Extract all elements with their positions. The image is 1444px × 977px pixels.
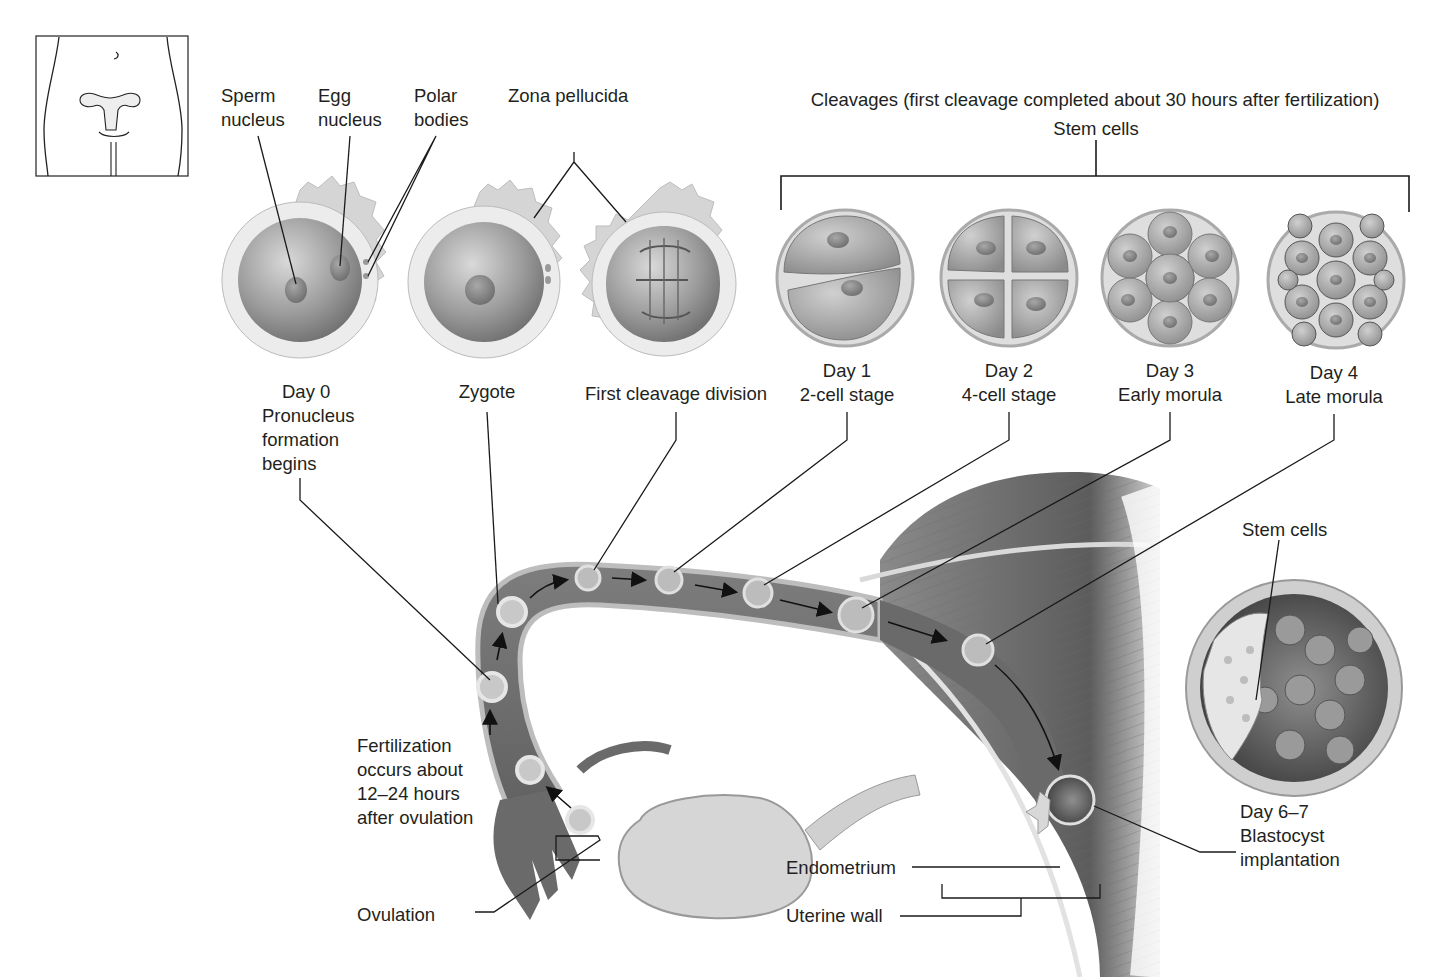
label-line: First cleavage division xyxy=(570,382,782,406)
stage-label-day0: Day 0 Pronucleus formation begins xyxy=(262,380,355,476)
polar-bodies-label: Polar bodies xyxy=(414,84,469,132)
stem-cells-top-label: Stem cells xyxy=(1040,117,1152,141)
stage-label-day2: Day 2 4-cell stage xyxy=(944,359,1074,407)
blastocyst-implantation-label: Day 6–7 Blastocyst implantation xyxy=(1240,800,1340,872)
label-line: formation xyxy=(262,428,355,452)
egg-nucleus-label: Egg nucleus xyxy=(318,84,382,132)
label-line: Sperm xyxy=(221,84,285,108)
early-morula-illustration xyxy=(1102,210,1238,346)
label-line: bodies xyxy=(414,108,469,132)
ovulation-label: Ovulation xyxy=(357,903,435,927)
first-cleavage-illustration xyxy=(580,182,736,356)
label-line: Day 6–7 xyxy=(1240,800,1340,824)
stage-label-day4: Day 4 Late morula xyxy=(1264,361,1404,409)
stem-cells-blastocyst-label: Stem cells xyxy=(1242,518,1327,542)
label-line: Day 2 xyxy=(944,359,1074,383)
label-line: Fertilization xyxy=(357,734,473,758)
zygote-illustration xyxy=(408,180,562,358)
diagram-canvas xyxy=(0,0,1444,977)
label-line: Zygote xyxy=(437,380,537,404)
blastocyst-detail-illustration xyxy=(1186,580,1402,796)
cleavage-bracket xyxy=(781,140,1409,212)
label-line: Egg xyxy=(318,84,382,108)
label-line: Late morula xyxy=(1264,385,1404,409)
label-line: implantation xyxy=(1240,848,1340,872)
ovary-illustration xyxy=(619,775,920,918)
endometrium-label: Endometrium xyxy=(786,856,896,880)
stage-label-zygote: Zygote xyxy=(437,380,537,404)
fertilization-label: Fertilization occurs about 12–24 hours a… xyxy=(357,734,473,830)
uterine-wall-label: Uterine wall xyxy=(786,904,883,928)
label-line: Day 0 xyxy=(262,380,355,404)
label-line: Pronucleus xyxy=(262,404,355,428)
label-line: 2-cell stage xyxy=(782,383,912,407)
two-cell-stage-illustration xyxy=(777,210,913,346)
label-line: Day 4 xyxy=(1264,361,1404,385)
label-line: Polar xyxy=(414,84,469,108)
cleavages-title: Cleavages (first cleavage completed abou… xyxy=(770,88,1420,112)
label-line: Early morula xyxy=(1100,383,1240,407)
stage-label-first-cleavage: First cleavage division xyxy=(570,382,782,406)
four-cell-stage-illustration xyxy=(941,210,1077,346)
label-line: 4-cell stage xyxy=(944,383,1074,407)
stage-label-day3: Day 3 Early morula xyxy=(1100,359,1240,407)
label-line: nucleus xyxy=(221,108,285,132)
pronucleus-egg-illustration xyxy=(222,176,386,358)
stage-label-day1: Day 1 2-cell stage xyxy=(782,359,912,407)
label-line: Day 1 xyxy=(782,359,912,383)
zona-pellucida-label: Zona pellucida xyxy=(508,84,628,108)
late-morula-illustration xyxy=(1268,212,1404,348)
sperm-nucleus-label: Sperm nucleus xyxy=(221,84,285,132)
label-line: Day 3 xyxy=(1100,359,1240,383)
label-line: nucleus xyxy=(318,108,382,132)
label-line: Blastocyst xyxy=(1240,824,1340,848)
label-line: after ovulation xyxy=(357,806,473,830)
locator-inset xyxy=(36,36,188,176)
label-line: 12–24 hours xyxy=(357,782,473,806)
label-line: begins xyxy=(262,452,355,476)
label-line: occurs about xyxy=(357,758,473,782)
